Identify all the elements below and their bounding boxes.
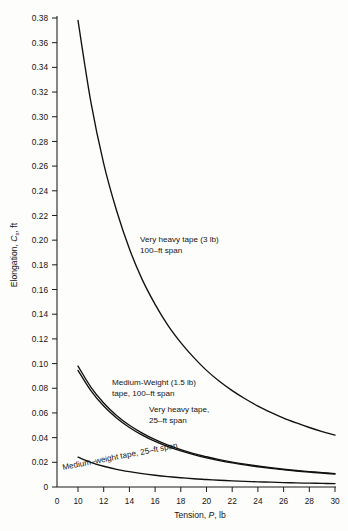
x-axis-tick-labels: 01012141618202224262830	[55, 496, 340, 506]
annot-very-heavy-100ft: Very heavy tape (3 lb) 100–ft span	[140, 235, 219, 255]
annot-very-heavy-25ft: Very heavy tape, 25–ft span	[149, 405, 209, 425]
chart-plot-area: 00.020.040.060.080.100.120.140.160.180.2…	[0, 0, 348, 531]
y-axis-ticks	[52, 18, 57, 487]
y-tick-label: 0.34	[32, 62, 49, 72]
y-tick-label: 0.18	[32, 260, 49, 270]
svg-text:Elongation, Cs, ft: Elongation, Cs, ft	[9, 222, 20, 287]
annot-medium-weight-100ft-line2: tape, 100–ft span	[112, 389, 175, 398]
y-tick-label: 0.38	[32, 13, 49, 23]
y-tick-label: 0.10	[32, 359, 49, 369]
x-tick-label: 16	[150, 496, 160, 506]
y-tick-label: 0.06	[32, 408, 49, 418]
y-axis-title-pre: Elongation,	[9, 242, 19, 287]
y-tick-label: 0.02	[32, 457, 49, 467]
annot-medium-weight-100ft-line1: Medium-Weight (1.5 lb)	[112, 378, 196, 387]
y-tick-label: 0.22	[32, 211, 49, 221]
y-tick-label: 0.36	[32, 38, 49, 48]
curve-very-heavy-tape-100ft	[78, 20, 335, 435]
y-axis-title: Elongation, Cs, ft	[9, 222, 20, 287]
y-tick-label: 0.32	[32, 87, 49, 97]
svg-text:Tension, P, lb: Tension, P, lb	[174, 510, 226, 520]
annot-medium-weight-25ft-line1: Medium–weight tape, 25–ft span	[62, 441, 179, 472]
x-tick-label: 18	[176, 496, 186, 506]
y-tick-label: 0.04	[32, 433, 49, 443]
x-tick-label: 28	[305, 496, 315, 506]
x-tick-label: 12	[99, 496, 109, 506]
y-tick-label: 0.08	[32, 383, 49, 393]
annot-very-heavy-25ft-line2: 25–ft span	[149, 416, 187, 425]
x-tick-label: 10	[73, 496, 83, 506]
x-axis-title: Tension, P, lb	[174, 510, 226, 520]
y-tick-label: 0.12	[32, 334, 49, 344]
y-tick-label: 0.28	[32, 137, 49, 147]
y-tick-label: 0.16	[32, 285, 49, 295]
chart-figure: 00.020.040.060.080.100.120.140.160.180.2…	[0, 0, 348, 531]
annot-medium-weight-100ft: Medium-Weight (1.5 lb) tape, 100–ft span	[112, 378, 196, 398]
x-tick-label: 26	[279, 496, 289, 506]
annot-very-heavy-100ft-line1: Very heavy tape (3 lb)	[140, 235, 219, 244]
y-axis-title-post: , ft	[9, 222, 19, 232]
x-tick-label: 24	[253, 496, 263, 506]
y-tick-label: 0.26	[32, 161, 49, 171]
y-tick-label: 0.30	[32, 112, 49, 122]
y-tick-label: 0	[43, 482, 48, 492]
y-tick-label: 0.20	[32, 235, 49, 245]
x-tick-label: 30	[330, 496, 340, 506]
x-tick-label: 14	[125, 496, 135, 506]
y-tick-label: 0.14	[32, 309, 49, 319]
x-tick-label: 20	[202, 496, 212, 506]
annot-medium-weight-25ft: Medium–weight tape, 25–ft span	[62, 441, 179, 472]
annot-very-heavy-100ft-line2: 100–ft span	[140, 246, 182, 255]
x-tick-label: 0	[55, 496, 60, 506]
x-axis-title-post: , lb	[214, 510, 226, 520]
x-axis-title-pre: Tension,	[174, 510, 208, 520]
y-tick-label: 0.24	[32, 186, 49, 196]
x-tick-label: 22	[228, 496, 238, 506]
annot-very-heavy-25ft-line1: Very heavy tape,	[149, 405, 209, 414]
x-axis-ticks	[78, 487, 335, 492]
y-axis-tick-labels: 00.020.040.060.080.100.120.140.160.180.2…	[32, 13, 49, 492]
